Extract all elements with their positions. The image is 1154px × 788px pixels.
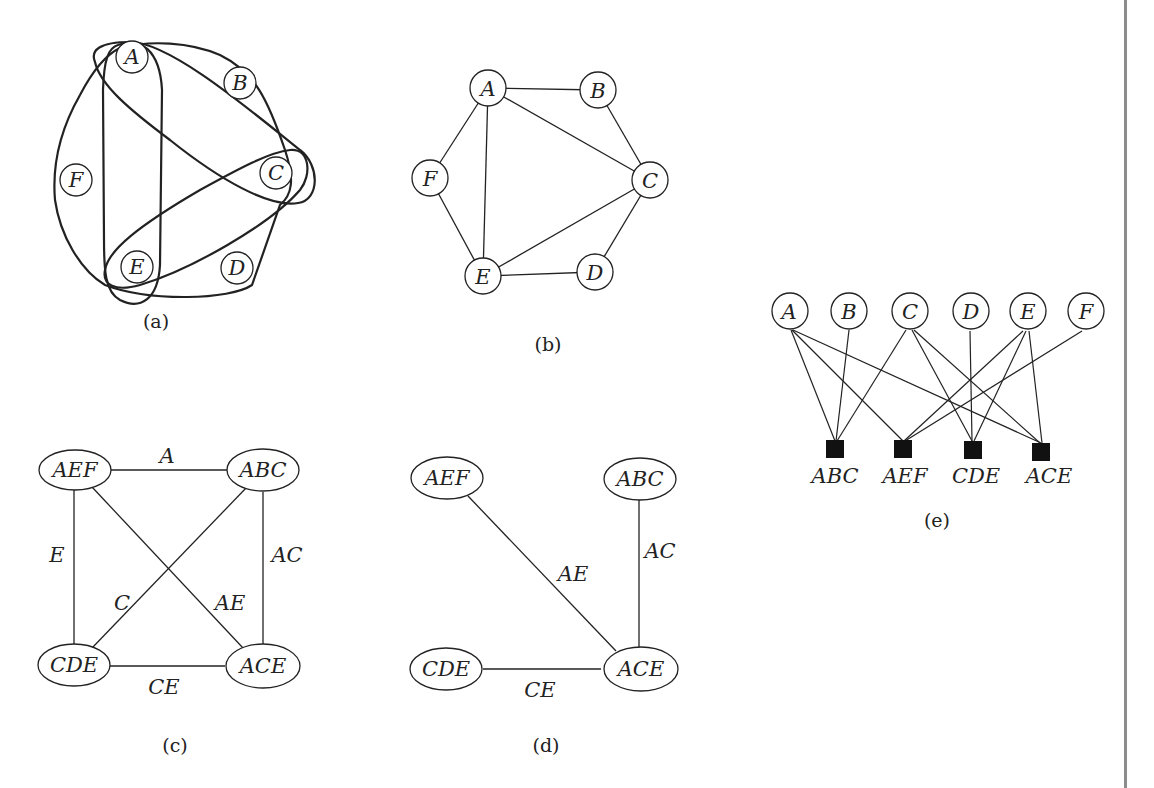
factor-cde-label: CDE [952, 464, 1000, 488]
edge-c-ace [914, 330, 1040, 443]
panel-d-edges [468, 496, 639, 669]
factor-ace-square [1032, 443, 1050, 461]
node-d-label: D [228, 256, 246, 280]
node-aef-label: AEF [422, 466, 470, 490]
node-c-label: C [642, 169, 658, 193]
node-d-label: D [586, 261, 604, 285]
factor-aef-square [894, 440, 912, 458]
panel-c-edges [74, 470, 263, 666]
factor-aef-label: AEF [880, 464, 928, 488]
caption-d: (d) [533, 734, 560, 756]
node-e-label: E [474, 265, 490, 289]
edge-label-ac: AC [269, 543, 302, 567]
variable-d-label: D [962, 300, 980, 324]
edge-c-e [483, 180, 650, 276]
variable-e-label: E [1019, 300, 1035, 324]
edge-label-ae: AE [213, 591, 246, 615]
edge-f-aef [905, 331, 1082, 441]
node-ace-label: ACE [238, 654, 287, 678]
caption-b: (b) [535, 333, 562, 355]
panel-e-edges [791, 330, 1082, 443]
edge-c-cde [912, 330, 972, 441]
node-a-label: A [122, 45, 139, 69]
edge-a-ace [793, 330, 1041, 443]
factor-ace-label: ACE [1024, 464, 1073, 488]
edge-label-e: E [48, 543, 64, 567]
panel-e-factor-nodes: ABC AEF CDE ACE [809, 440, 1072, 488]
node-aef-label: AEF [50, 458, 98, 482]
node-f-label: F [68, 168, 85, 192]
edge-label-ac: AC [642, 539, 675, 563]
variable-f-label: F [1078, 300, 1095, 324]
node-a-label: A [478, 77, 495, 101]
variable-a-label: A [779, 300, 796, 324]
node-cde-label: CDE [422, 657, 470, 681]
edge-label-ce: CE [524, 678, 555, 702]
edge-label-a: A [157, 444, 174, 468]
edge-label-ae: AE [556, 562, 589, 586]
node-f-label: F [422, 167, 439, 191]
node-b-label: B [589, 79, 605, 103]
panel-e-variable-nodes: A B C D E F [772, 293, 1104, 329]
edge-aef-ace [468, 496, 616, 651]
edge-label-ce: CE [148, 675, 179, 699]
panel-b-edges [430, 88, 650, 276]
caption-c: (c) [162, 734, 187, 756]
panel-b-primal-graph: A B C D E F (b) [412, 70, 668, 355]
panel-a-hypergraph: A B C D E F (a) [54, 41, 314, 332]
caption-a: (a) [143, 310, 169, 332]
panel-a-nodes: A B C D E F [60, 41, 292, 284]
node-b-label: B [231, 71, 247, 95]
panel-b-nodes: A B C D E F [412, 70, 668, 294]
node-cde-label: CDE [50, 653, 98, 677]
factor-abc-square [826, 440, 844, 458]
node-e-label: E [128, 255, 144, 279]
caption-e: (e) [924, 509, 950, 531]
factor-abc-label: ABC [809, 464, 858, 488]
panel-c-dual-graph: AEF ABC CDE ACE A E AC C AE CE (c) [38, 444, 303, 756]
figure-canvas: A B C D E F (a) A [0, 0, 1154, 788]
variable-b-label: B [840, 300, 856, 324]
panel-d-nodes: AEF ABC CDE ACE [410, 457, 678, 691]
edge-label-c: C [114, 591, 130, 615]
node-abc-label: ABC [237, 458, 286, 482]
edge-e-ace [1029, 331, 1042, 443]
edge-a-c [488, 88, 650, 180]
panel-d-join-tree: AEF ABC CDE ACE AE AC CE (d) [410, 457, 678, 756]
edge-a-e [483, 88, 488, 276]
page-edge-divider [1124, 0, 1127, 788]
variable-c-label: C [902, 300, 918, 324]
factor-cde-square [964, 441, 982, 459]
edge-d-cde [970, 331, 972, 441]
node-abc-label: ABC [614, 467, 663, 491]
node-ace-label: ACE [616, 657, 665, 681]
panel-e-factor-graph: A B C D E F ABC AEF CDE ACE (e) [772, 293, 1104, 531]
node-c-label: C [268, 161, 284, 185]
